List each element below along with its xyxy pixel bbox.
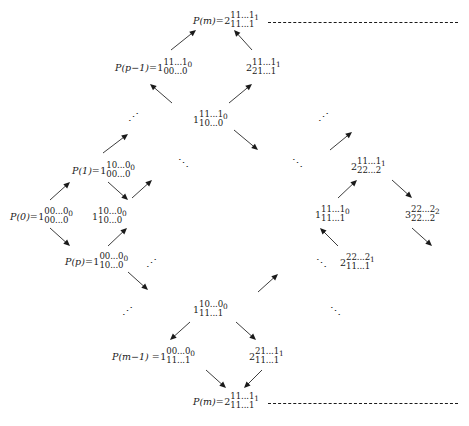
node-subscript: 0 (122, 210, 127, 218)
node-vector-stack: 10...000...00 (106, 161, 130, 180)
edge-arrow (402, 218, 442, 256)
diagonal-ellipsis: ⋰ (122, 306, 133, 317)
lattice-node: 211...122...21 (351, 157, 381, 176)
edge-arrow (320, 122, 362, 160)
edge-arrow (382, 170, 422, 208)
node-subscript: 0 (68, 210, 73, 218)
node-vector-stack: 10...010...00 (98, 207, 122, 226)
node-subscript: 0 (345, 208, 350, 216)
node-label: P(m)= (193, 16, 224, 26)
diagonal-ellipsis: ⋰ (128, 112, 139, 123)
edge-arrow (140, 74, 182, 113)
node-subscript: 0 (130, 164, 135, 172)
node-vector-stack: 10...011...10 (199, 300, 223, 319)
node-vector-bottom: 11...1 (230, 20, 254, 29)
edge-arrow (219, 74, 262, 113)
node-subscript: 0 (190, 350, 195, 358)
node-vector-bottom: 10...0 (98, 216, 122, 225)
lattice-node: 222...211...11 (340, 253, 370, 272)
edge-arrow (310, 218, 348, 256)
dashed-rail (268, 22, 458, 23)
diagonal-ellipsis: ⋱ (316, 258, 327, 269)
lattice-node: 322...222...22 (405, 205, 435, 224)
node-subscript: 0 (187, 61, 192, 69)
node-vector-bottom: 22...2 (411, 214, 435, 223)
node-vector-bottom: 00...0 (44, 216, 68, 225)
node-vector-bottom: 00...0 (163, 67, 187, 76)
node-subscript: 2 (435, 208, 440, 216)
node-vector-bottom: 10...0 (99, 261, 123, 270)
edge-arrow (248, 264, 288, 302)
edge-arrow (224, 120, 268, 160)
lattice-node: 221...111...11 (249, 347, 279, 366)
diagonal-ellipsis: ⋰ (318, 112, 329, 123)
lattice-node: P(p)=100...010...00 (65, 252, 123, 271)
node-subscript: 0 (223, 113, 228, 121)
node-vector-stack: 22...222...22 (411, 205, 435, 224)
node-vector-stack: 11...111...11 (230, 11, 254, 30)
node-vector-stack: 11...110...00 (199, 110, 223, 129)
node-vector-stack: 11...122...21 (357, 157, 381, 176)
node-vector-bottom: 11...1 (166, 356, 190, 365)
node-vector-bottom: 10...0 (199, 119, 223, 128)
node-vector-bottom: 21...1 (252, 67, 276, 76)
node-subscript: 0 (123, 255, 128, 263)
node-vector-bottom: 11...1 (346, 262, 370, 271)
edge-arrow (328, 170, 367, 208)
node-subscript: 1 (276, 61, 281, 69)
lattice-node: P(m)=211...111...11 (193, 11, 254, 30)
node-subscript: 1 (254, 395, 259, 403)
diagonal-ellipsis: ⋰ (146, 258, 157, 269)
node-label: P(p)= (65, 257, 93, 267)
node-vector-stack: 11...111...10 (321, 205, 345, 224)
node-vector-stack: 21...111...11 (255, 347, 279, 366)
node-vector-stack: 00...000...00 (44, 207, 68, 226)
dashed-rail (268, 403, 458, 404)
node-vector-stack: 11...111...11 (230, 392, 254, 411)
node-vector-bottom: 11...1 (255, 356, 279, 365)
edge-arrow (93, 124, 138, 163)
node-vector-stack: 00...010...00 (99, 252, 123, 271)
lattice-node: P(p−1)=111...100...00 (115, 58, 187, 77)
node-vector-bottom: 11...1 (230, 401, 254, 410)
node-vector-bottom: 11...1 (199, 309, 223, 318)
node-label: P(1)= (72, 166, 100, 176)
lattice-node: P(m)=211...111...11 (193, 392, 254, 411)
node-vector-stack: 11...100...00 (163, 58, 187, 77)
lattice-node: P(0)=100...000...00 (10, 207, 68, 226)
node-subscript: 0 (223, 303, 228, 311)
node-vector-stack: 00...011...10 (166, 347, 190, 366)
node-vector-bottom: 22...2 (357, 166, 381, 175)
lattice-node: P(1)=110...000...00 (72, 161, 130, 180)
lattice-node: 111...111...10 (315, 205, 345, 224)
diagonal-ellipsis: ⋱ (178, 158, 189, 169)
node-label: P(m)= (193, 397, 224, 407)
node-vector-bottom: 11...1 (321, 214, 345, 223)
diagonal-ellipsis: ⋱ (292, 158, 303, 169)
node-vector-bottom: 00...0 (106, 170, 130, 179)
node-vector-stack: 22...211...11 (346, 253, 370, 272)
node-vector-stack: 11...121...11 (252, 58, 276, 77)
node-label: P(p−1)= (115, 63, 157, 73)
node-label: P(0)= (10, 212, 38, 222)
lattice-node: 110...011...10 (193, 300, 223, 319)
lattice-node: P(m−1) =100...011...10 (112, 347, 190, 366)
diagonal-ellipsis: ⋱ (330, 306, 341, 317)
node-subscript: 1 (279, 350, 284, 358)
node-label: P(m−1) = (112, 352, 160, 362)
lattice-diagram: ⋰⋰⋱⋱⋰⋱⋰⋱P(m)=211...111...11P(p−1)=111...… (0, 0, 469, 426)
lattice-node: 211...121...11 (246, 58, 276, 77)
edge-arrow (226, 312, 266, 350)
lattice-node: 111...110...00 (193, 110, 223, 129)
node-subscript: 1 (370, 256, 375, 264)
node-subscript: 1 (381, 160, 386, 168)
lattice-node: 110...010...00 (92, 207, 122, 226)
node-subscript: 1 (254, 14, 259, 22)
